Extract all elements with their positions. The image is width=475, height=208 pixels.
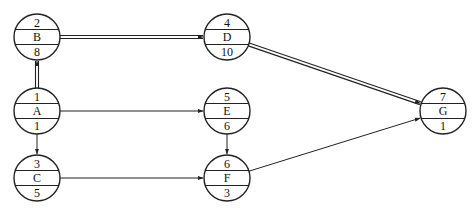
node-id: 7 bbox=[440, 90, 446, 104]
node-name: B bbox=[33, 30, 41, 44]
node-id: 6 bbox=[224, 157, 230, 171]
node-C: 3C5 bbox=[14, 155, 60, 201]
node-name: G bbox=[439, 104, 448, 118]
node-G: 7G1 bbox=[420, 88, 466, 134]
node-id: 5 bbox=[224, 90, 230, 104]
node-duration: 8 bbox=[34, 45, 40, 59]
node-duration: 1 bbox=[34, 119, 40, 133]
node-duration: 3 bbox=[224, 186, 230, 200]
node-duration: 1 bbox=[440, 119, 446, 133]
node-E: 5E6 bbox=[204, 88, 250, 134]
node-D: 4D10 bbox=[204, 14, 250, 60]
node-duration: 6 bbox=[224, 119, 230, 133]
node-F: 6F3 bbox=[204, 155, 250, 201]
node-name: F bbox=[224, 171, 231, 185]
node-duration: 5 bbox=[34, 186, 40, 200]
node-id: 4 bbox=[224, 16, 230, 30]
edge-D-G bbox=[248, 43, 421, 105]
edge-F-G bbox=[249, 118, 420, 171]
network-diagram: 2B84D101A15E63C56F37G1 bbox=[0, 0, 475, 208]
node-id: 2 bbox=[34, 16, 40, 30]
node-duration: 10 bbox=[221, 45, 233, 59]
edge-B-D bbox=[60, 36, 203, 39]
edge-A-B bbox=[36, 61, 39, 88]
node-name: E bbox=[223, 104, 230, 118]
node-name: A bbox=[33, 104, 42, 118]
node-name: D bbox=[223, 30, 232, 44]
node-id: 1 bbox=[34, 90, 40, 104]
node-name: C bbox=[33, 171, 41, 185]
node-B: 2B8 bbox=[14, 14, 60, 60]
node-id: 3 bbox=[34, 157, 40, 171]
node-A: 1A1 bbox=[14, 88, 60, 134]
